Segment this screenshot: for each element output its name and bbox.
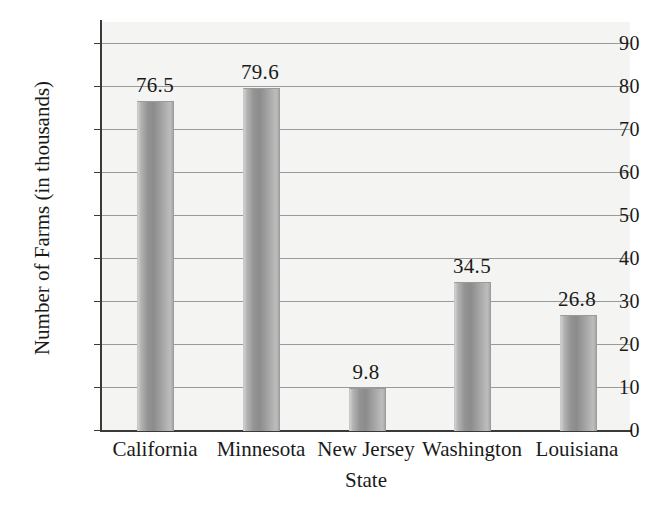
y-axis-tick-mark: [94, 430, 102, 431]
bar: [560, 315, 597, 431]
y-axis-tick-label: 90: [560, 33, 650, 53]
y-axis-tick-mark: [94, 301, 102, 302]
bar-value-label: 9.8: [316, 362, 416, 383]
x-axis-category-label: Louisiana: [524, 437, 630, 461]
x-axis-category-label: Washington: [419, 437, 525, 461]
y-axis-tick-label: 70: [560, 119, 650, 139]
y-axis-tick-label: 50: [560, 205, 650, 225]
gridline: [102, 172, 630, 173]
y-axis-tick-mark: [94, 344, 102, 345]
y-axis-tick-mark: [94, 258, 102, 259]
bar-value-label: 34.5: [422, 256, 522, 277]
bar: [243, 88, 280, 431]
gridline: [102, 215, 630, 216]
bar-value-label: 76.5: [105, 75, 205, 96]
bar-value-label: 79.6: [210, 62, 310, 83]
x-axis-category-label: Minnesota: [208, 437, 314, 461]
gridline: [102, 344, 630, 345]
y-axis-line: [100, 20, 102, 432]
y-axis-tick-mark: [94, 129, 102, 130]
y-axis-tick-mark: [94, 43, 102, 44]
y-axis-tick-mark: [94, 215, 102, 216]
y-axis-tick-label: 40: [560, 248, 650, 268]
bar-chart-figure: 0102030405060708090 76.579.69.834.526.8 …: [0, 0, 650, 513]
gridline: [102, 43, 630, 44]
gridline: [102, 129, 630, 130]
bar: [454, 282, 491, 431]
x-axis-category-label: New Jersey: [313, 437, 419, 461]
bar-value-label: 26.8: [527, 289, 627, 310]
x-axis-category-label: California: [102, 437, 208, 461]
y-axis-tick-label: 80: [560, 76, 650, 96]
y-axis-tick-mark: [94, 172, 102, 173]
bar: [349, 388, 386, 431]
y-axis-title: Number of Farms (in thousands): [30, 58, 54, 378]
y-axis-tick-mark: [94, 387, 102, 388]
y-axis-tick-mark: [94, 86, 102, 87]
gridline: [102, 258, 630, 259]
y-axis-tick-label: 60: [560, 162, 650, 182]
x-axis-title: State: [102, 468, 630, 492]
bar: [137, 101, 174, 431]
